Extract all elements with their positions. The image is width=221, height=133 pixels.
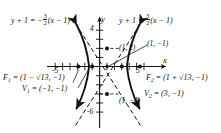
slope-fraction-left: 32 [43,13,47,27]
point-co-vertex-bottom [105,92,109,96]
asymptote-left-equation-suffix: (x − 1) [48,16,70,25]
label-focus-left: F1 = (1 − √13, −1) [3,74,65,83]
label-point-center: (1, −1) [147,40,168,48]
y-axis [96,17,103,128]
focus-right-value: = (1 + √13, −1) [154,73,208,82]
focus-left-value: = (1 − √13, −1) [11,73,65,82]
leader-focus-left [73,70,79,83]
label-vertex-left: V1 = (−1, −1) [22,85,67,94]
y-tick-label-neg6: -6 [87,108,93,116]
asymptote-right-equation-suffix: (x − 1) [150,16,172,25]
x-axis-label: x [163,56,167,65]
slope-numerator-left: 3 [43,13,47,20]
slope-denominator-left: 2 [43,20,47,26]
point-co-vertex-top [105,46,109,50]
label-vertex-right: V2 = (3, −1) [144,90,184,99]
point-vertex-right [120,65,124,69]
asymptote-left-equation: y + 1 = −32(x − 1) [11,13,70,27]
hyperbola-figure: y x -5 5 4 -6 y + 1 = −32(x − 1) y + 1 =… [0,0,221,133]
y-axis-label: y [101,15,105,24]
point-vertex-left [90,65,94,69]
vertex-right-value: = (3, −1) [152,89,184,98]
vertex-left-value: = (−1, −1) [30,84,68,93]
asymptote-right-equation: y + 1 = 32(x − 1) [119,13,173,27]
label-point-top: (1, 2) [119,44,135,52]
x-tick-label-5: 5 [136,67,140,75]
point-center [105,65,108,68]
point-focus-left [76,65,80,69]
asymptote-left-equation-prefix: y + 1 = − [11,16,43,25]
label-point-bottom: (1, −4) [119,97,140,105]
asymptote-right-equation-prefix: y + 1 = [119,16,145,25]
label-focus-right: F2 = (1 + √13, −1) [146,74,208,83]
y-tick-label-4: 4 [90,25,94,33]
